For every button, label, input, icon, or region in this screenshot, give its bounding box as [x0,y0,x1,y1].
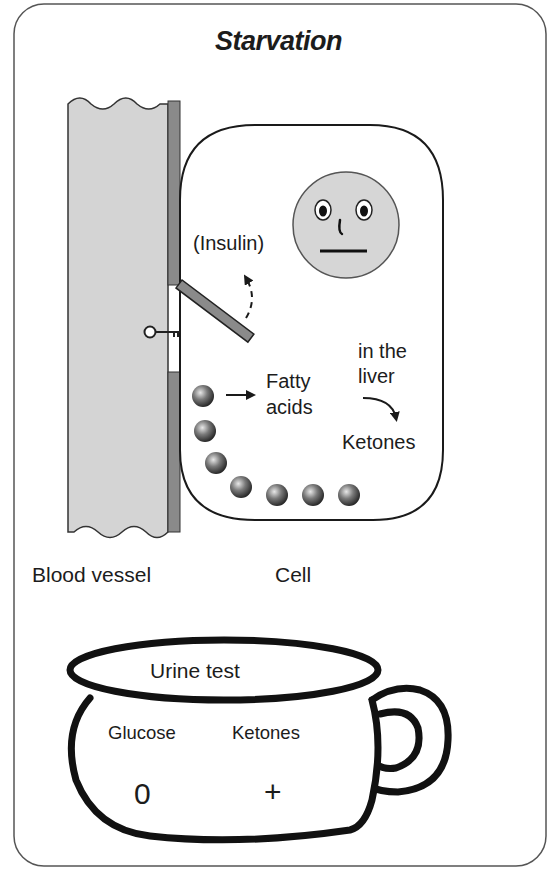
liver-label-line1: in the [358,340,407,363]
fatty-acids-label-line1: Fatty [266,370,310,393]
blood-vessel [68,98,168,538]
blood-vessel-label: Blood vessel [32,563,151,587]
cell-membrane-lower [168,372,180,532]
ketones-value: + [264,775,282,809]
ketones-column-label: Ketones [232,722,300,744]
glucose-column-label: Glucose [108,722,176,744]
fatty-acids-label-line2: acids [266,396,313,419]
cell-membrane-upper [168,101,180,285]
face-icon [293,172,399,278]
liver-label-line2: liver [358,365,395,388]
urine-test-title: Urine test [150,659,240,683]
diagram-canvas [0,0,557,877]
glucose-value: 0 [134,777,151,811]
ketones-label: Ketones [342,431,415,454]
cell-label: Cell [275,563,311,587]
page-title: Starvation [0,26,557,57]
insulin-label: (Insulin) [193,232,264,255]
